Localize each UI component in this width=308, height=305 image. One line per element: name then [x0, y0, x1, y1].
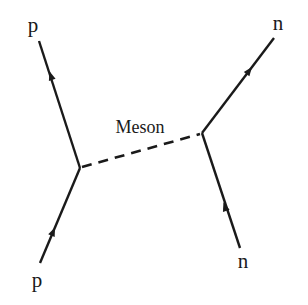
diagram-svg: p p n n Meson — [0, 0, 308, 305]
proton-in-arrow-icon — [48, 226, 58, 237]
proton-out-line — [39, 41, 80, 168]
label-proton-top: p — [28, 13, 39, 37]
label-meson: Meson — [116, 117, 165, 137]
proton-out-arrow-icon — [46, 70, 55, 81]
feynman-diagram: p p n n Meson — [0, 0, 308, 305]
label-proton-bottom: p — [32, 268, 43, 292]
meson-exchange-line — [82, 134, 200, 167]
proton-in-line — [40, 168, 80, 263]
neutron-out-line — [202, 38, 274, 133]
label-neutron-bottom: n — [238, 249, 249, 273]
neutron-in-line — [202, 133, 240, 248]
label-neutron-top: n — [273, 11, 284, 35]
